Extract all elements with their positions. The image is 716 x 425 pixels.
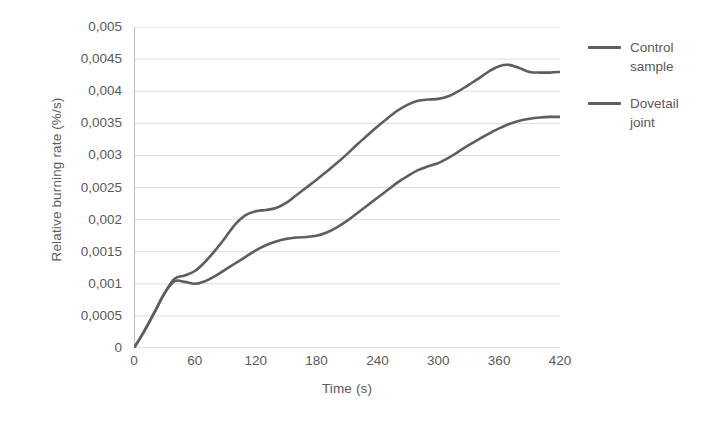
legend-line-icon [588,46,621,49]
y-tick-label: 0,0015 [81,245,122,259]
y-tick-label: 0,002 [88,213,122,227]
y-tick-label: 0,004 [88,84,122,98]
y-tick-label: 0,0035 [81,117,122,131]
legend-label: Dovetail joint [630,94,706,132]
chart-plot-svg [134,27,560,348]
plot-area [134,27,560,348]
chart-legend: Control sampleDovetail joint [588,38,714,151]
legend-entry[interactable]: Control sample [588,38,714,76]
x-tick-label: 60 [187,354,202,368]
x-tick-label: 300 [427,354,450,368]
chart-container: Relative burning rate (%/s) 00,00050,001… [0,0,716,425]
legend-line-icon [588,102,621,105]
legend-entry[interactable]: Dovetail joint [588,94,714,132]
x-tick-label: 240 [366,354,389,368]
x-axis-title: Time (s) [134,381,560,396]
x-tick-label: 120 [244,354,267,368]
series-line-0 [134,65,560,348]
y-tick-label: 0,001 [88,277,122,291]
y-tick-label: 0,003 [88,149,122,163]
y-axis-tick-labels: 00,00050,0010,00150,0020,00250,0030,0035… [40,27,128,348]
x-tick-label: 0 [130,354,138,368]
series-line-1 [134,117,560,348]
y-tick-label: 0,0045 [81,52,122,66]
y-tick-label: 0,005 [88,20,122,34]
y-tick-label: 0 [114,341,122,355]
x-tick-label: 420 [549,354,572,368]
x-axis-tick-labels: 060120180240300360420 [134,354,560,376]
y-tick-label: 0,0005 [81,309,122,323]
legend-label: Control sample [630,38,706,76]
y-tick-label: 0,0025 [81,181,122,195]
x-tick-label: 180 [305,354,328,368]
x-tick-label: 360 [488,354,511,368]
